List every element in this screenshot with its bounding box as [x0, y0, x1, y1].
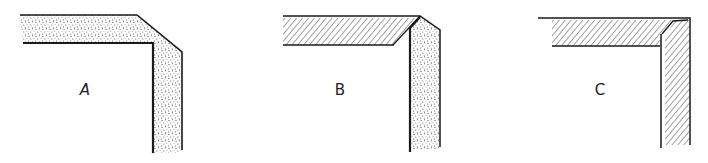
- panel-label-a: A: [80, 81, 90, 99]
- panel-b-vertical-member-fill: [410, 17, 440, 150]
- panel-b: [283, 16, 440, 152]
- panel-label-b: B: [335, 81, 345, 99]
- panel-a: [20, 15, 182, 153]
- panel-c: [538, 18, 690, 148]
- panel-label-c: C: [595, 81, 605, 99]
- panel-c-horizontal-member-fill: [552, 20, 675, 46]
- panel-c-vertical-member-fill: [665, 20, 690, 145]
- panel-a-member-fill: [20, 15, 182, 153]
